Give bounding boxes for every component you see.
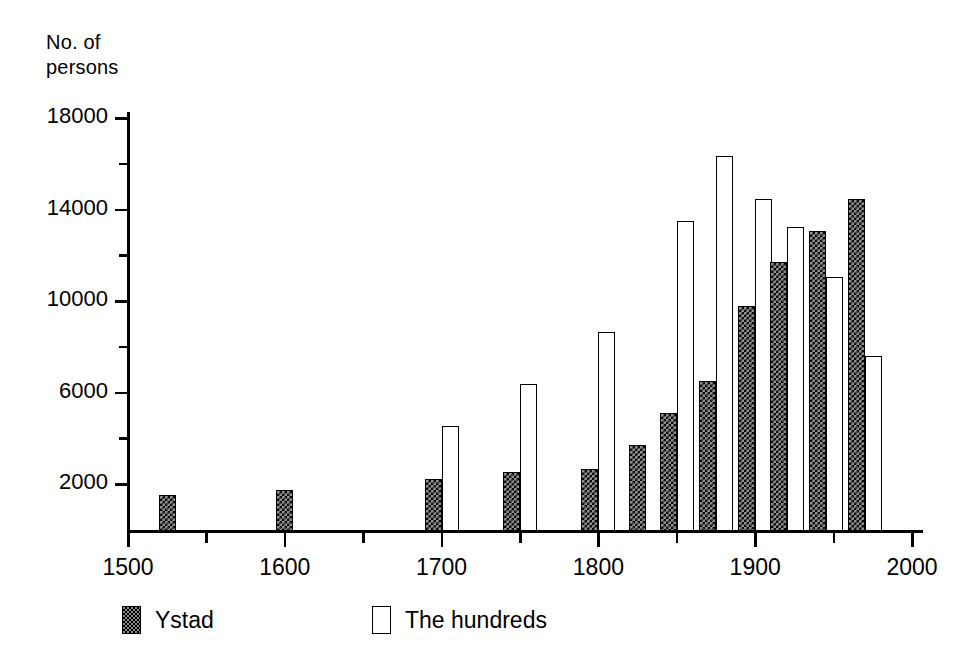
x-axis-tick-label: 1900 [705,554,805,581]
legend-label: Ystad [155,607,214,634]
y-axis-tick-label: 18000 [0,103,108,129]
bar-ystad [699,381,716,531]
bar-ystad [629,445,646,531]
y-axis-major-tick [115,209,129,212]
x-axis-tick-label: 1700 [392,554,492,581]
y-axis-minor-tick [119,437,129,440]
y-axis-major-tick [115,392,129,395]
x-axis-tick-label: 1600 [235,554,335,581]
x-axis-tick-label: 1800 [548,554,648,581]
y-axis-major-tick [115,300,129,303]
bar-ystad [660,413,677,531]
x-axis-minor-tick [519,532,522,543]
bar-the-hundreds [442,426,459,531]
y-axis-minor-tick [119,163,129,166]
y-axis-major-tick [115,117,129,120]
x-axis-minor-tick [362,532,365,543]
x-axis-major-tick [441,532,444,547]
bar-ystad [276,490,293,531]
x-axis-major-tick [284,532,287,547]
y-axis-line [127,112,130,532]
bar-ystad [503,472,520,531]
bar-ystad [159,495,176,531]
bar-ystad [738,306,755,531]
bar-the-hundreds [865,356,882,531]
x-axis-major-tick [754,532,757,547]
chart-figure: No. of persons 20006000100001400018000 1… [0,0,956,666]
y-axis-tick-label: 10000 [0,286,108,312]
y-axis-tick-label: 14000 [0,195,108,221]
bar-ystad [581,469,598,531]
bar-the-hundreds [787,227,804,531]
x-axis-tick-label: 2000 [862,554,956,581]
bar-ystad [848,199,865,531]
y-axis-minor-tick [119,346,129,349]
y-axis-minor-tick [119,254,129,257]
legend-item-ystad: Ystad [122,606,214,634]
x-axis-major-tick [911,532,914,547]
x-axis-minor-tick [676,532,679,543]
legend-swatch-icon [372,606,391,634]
y-axis-major-tick [115,483,129,486]
bar-the-hundreds [826,277,843,531]
bar-ystad [770,262,787,531]
bar-the-hundreds [677,221,694,531]
y-axis-tick-label: 2000 [0,469,108,495]
bar-the-hundreds [598,332,615,531]
x-axis-minor-tick [833,532,836,543]
legend-label: The hundreds [405,607,547,634]
x-axis-tick-label: 1500 [78,554,178,581]
legend-item-the-hundreds: The hundreds [372,606,547,634]
bar-the-hundreds [520,384,537,531]
legend-swatch-icon [122,606,141,634]
x-axis-major-tick [127,532,130,547]
y-axis-tick-label: 6000 [0,378,108,404]
x-axis-major-tick [597,532,600,547]
y-axis-title: No. of persons [46,30,119,80]
x-axis-minor-tick [205,532,208,543]
bar-ystad [425,479,442,532]
bar-the-hundreds [716,156,733,531]
bar-ystad [809,231,826,531]
